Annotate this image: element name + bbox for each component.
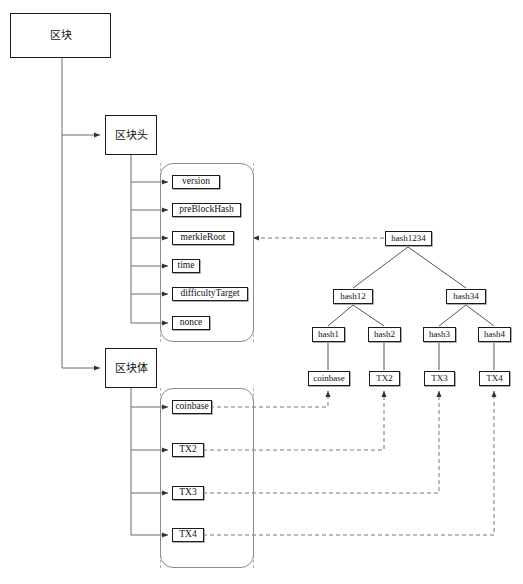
field-nonce[interactable]: nonce	[172, 316, 210, 330]
body-tx-tx3[interactable]: TX3	[172, 486, 204, 500]
merkle-node-hash1[interactable]: hash1	[312, 327, 345, 342]
merkle-leaf-tx4[interactable]: TX4	[479, 371, 510, 386]
field-preblockhash[interactable]: preBlockHash	[172, 203, 241, 217]
merkle-leaf-tx3[interactable]: TX3	[424, 371, 455, 386]
body-tx-tx4[interactable]: TX4	[172, 528, 204, 542]
merkle-node-hash4[interactable]: hash4	[478, 327, 511, 342]
node-block-body[interactable]: 区块体	[105, 348, 157, 388]
node-block[interactable]: 区块	[10, 13, 111, 58]
field-time[interactable]: time	[172, 259, 200, 273]
merkle-leaf-tx2[interactable]: TX2	[369, 371, 400, 386]
node-block-header[interactable]: 区块头	[105, 115, 157, 155]
body-tx-coinbase[interactable]: coinbase	[172, 400, 212, 414]
merkle-leaf-coinbase[interactable]: coinbase	[308, 371, 350, 386]
merkle-node-hash3[interactable]: hash3	[423, 327, 456, 342]
diagram-canvas: 区块 区块头 区块体 version preBlockHash merkleRo…	[0, 0, 523, 584]
field-difficultytarget[interactable]: difficultyTarget	[172, 287, 248, 301]
body-tx-tx2[interactable]: TX2	[172, 443, 204, 457]
dashed-link-layer	[0, 0, 523, 584]
merkle-node-hash12[interactable]: hash12	[333, 289, 373, 304]
merkle-node-hash34[interactable]: hash34	[446, 289, 486, 304]
merkle-node-hash2[interactable]: hash2	[368, 327, 401, 342]
field-merkleroot[interactable]: merkleRoot	[172, 231, 234, 245]
merkle-root-hash1234[interactable]: hash1234	[385, 231, 432, 246]
field-version[interactable]: version	[172, 175, 220, 189]
